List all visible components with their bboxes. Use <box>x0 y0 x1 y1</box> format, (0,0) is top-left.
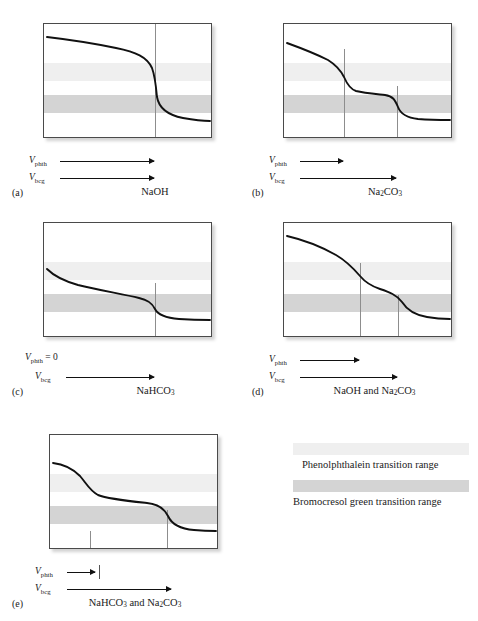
v-bcg-subscript-c: bcg <box>41 376 51 383</box>
panel-letter-c: (c) <box>12 386 23 397</box>
v-phth-tick-e <box>99 565 100 579</box>
v-phth-arrow-e <box>67 572 95 573</box>
panel-letter-a: (a) <box>12 187 23 198</box>
v-phth-subscript-d: phth <box>275 359 287 366</box>
v-bcg-arrow-a <box>60 178 154 179</box>
v-bcg-label-d: Vbcg <box>269 372 285 384</box>
panel-a: Vphth Vbcg NaOH (a) <box>43 23 243 203</box>
annotations-b: Vphth Vbcg Na2CO3 <box>250 138 478 203</box>
annotations-c: Vphth = 0 Vbcg NaHCO3 <box>10 337 243 402</box>
legend-label-bromocresol-green: Bromocresol green transition range <box>293 496 441 507</box>
titration-curves-figure: Vphth Vbcg NaOH (a) Vphth <box>0 0 478 621</box>
panel-letter-d: (d) <box>252 386 264 397</box>
plot-area-e <box>49 434 218 549</box>
legend-label-phenolphthalein: Phenolphthalein transition range <box>302 459 438 470</box>
v-phth-label-c: Vphth = 0 <box>25 353 58 365</box>
plot-area-d <box>283 222 452 337</box>
annotations-d: Vphth Vbcg NaOH and Na2CO3 <box>250 337 478 402</box>
v-bcg-subscript-e: bcg <box>41 588 51 595</box>
plot-area-c <box>43 222 212 337</box>
panel-b: Vphth Vbcg Na2CO3 (b) <box>283 23 478 203</box>
titration-curve-d <box>284 223 452 337</box>
legend-swatch-phenolphthalein <box>293 443 469 455</box>
v-phth-label-b: Vphth <box>269 156 287 168</box>
v-phth-arrow-b <box>300 161 343 162</box>
v-bcg-label-a: Vbcg <box>29 173 45 185</box>
v-phth-zero-c: = 0 <box>43 352 58 362</box>
legend-swatch-bromocresol-green <box>293 480 469 492</box>
v-phth-subscript-b: phth <box>275 160 287 167</box>
v-phth-subscript-c: phth <box>31 357 43 364</box>
v-bcg-subscript-d: bcg <box>275 376 285 383</box>
plot-area-a <box>43 23 212 138</box>
species-label-e: NaHCO3 and Na2CO3 <box>60 597 210 609</box>
v-bcg-arrow-e <box>67 589 171 590</box>
v-bcg-label-b: Vbcg <box>269 173 285 185</box>
v-bcg-subscript-a: bcg <box>35 177 45 184</box>
v-bcg-label-c: Vbcg <box>35 372 51 384</box>
panel-letter-b: (b) <box>252 187 264 198</box>
titration-curve-b <box>284 24 452 138</box>
v-phth-label-e: Vphth <box>35 567 53 579</box>
annotations-a: Vphth Vbcg NaOH <box>0 138 243 203</box>
v-phth-arrow-a <box>60 161 154 162</box>
v-bcg-arrow-b <box>300 178 396 179</box>
v-phth-subscript-e: phth <box>41 571 53 578</box>
v-bcg-subscript-b: bcg <box>275 177 285 184</box>
titration-curve-e <box>50 435 218 549</box>
v-phth-subscript-a: phth <box>35 160 47 167</box>
plot-area-b <box>283 23 452 138</box>
panel-letter-e: (e) <box>12 598 23 609</box>
panel-c: Vphth = 0 Vbcg NaHCO3 (c) <box>43 222 243 402</box>
v-phth-label-a: Vphth <box>29 156 47 168</box>
v-bcg-label-e: Vbcg <box>35 584 51 596</box>
species-label-b: Na2CO3 <box>335 186 435 198</box>
panel-e: Vphth Vbcg NaHCO3 and Na2CO3 (e) <box>49 434 249 614</box>
annotations-e: Vphth Vbcg NaHCO3 and Na2CO3 <box>10 549 249 614</box>
species-label-d: NaOH and Na2CO3 <box>312 385 437 397</box>
v-phth-arrow-d <box>300 360 359 361</box>
legend: Phenolphthalein transition range Bromocr… <box>293 443 469 513</box>
panel-d: Vphth Vbcg NaOH and Na2CO3 (d) <box>283 222 478 402</box>
titration-curve-a <box>44 24 212 138</box>
v-phth-label-d: Vphth <box>269 355 287 367</box>
titration-curve-c <box>44 223 212 337</box>
species-label-c: NaHCO3 <box>108 385 203 397</box>
v-bcg-arrow-c <box>66 377 154 378</box>
species-label-a: NaOH <box>110 186 200 197</box>
v-bcg-arrow-d <box>300 377 397 378</box>
